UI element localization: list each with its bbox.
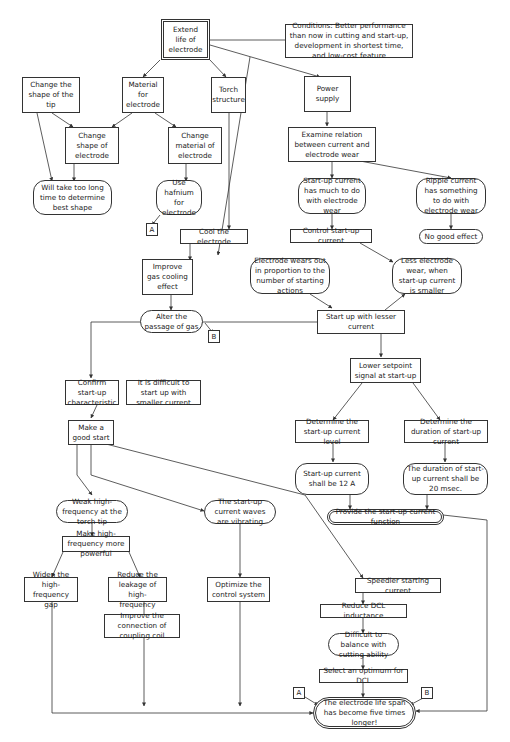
node-change-tip: Change the shape of the tip: [22, 77, 80, 113]
node-power-supply: Power supply: [304, 76, 351, 112]
node-difficult-start: It is difficult to start up with smaller…: [126, 380, 201, 405]
node-change-shape: Change shape of electrode: [65, 127, 119, 164]
connector-b-bottom: B: [421, 687, 433, 699]
node-torch: Torch structure: [211, 77, 246, 113]
node-extend-life: Extend life of electrode: [161, 19, 210, 60]
node-cool: Cool the electrode: [180, 229, 248, 244]
node-balance: Difficult to balance with cutting abilit…: [328, 633, 399, 656]
node-startup-wear: Start-up current has much to do with ele…: [298, 178, 366, 214]
node-reduce-leak: Reduce the leakage of high-frequency: [108, 577, 167, 602]
connector-a-bottom: A: [293, 687, 305, 699]
node-too-long: Will take too long time to determine bes…: [33, 180, 112, 215]
node-vibrating: The start-up current waves are vibrating: [204, 500, 276, 524]
node-det-duration: Determine the duration of start-up curre…: [404, 420, 488, 443]
node-material: Material for electrode: [122, 77, 164, 113]
node-change-material: Change material of electrode: [168, 127, 222, 164]
node-weak-hf: Weak high-frequency at the torch tip: [56, 500, 128, 523]
node-result: The electrode life span has become five …: [313, 697, 416, 729]
node-coupling: Improve the connection of coupling coil: [104, 614, 180, 638]
node-duration-20: The duration of start-up current shall b…: [403, 463, 488, 495]
node-speedier: Speedier starting current: [355, 578, 441, 593]
node-hafnium: Use hafnium for electrode: [156, 180, 202, 215]
node-level-12a: Start-up current shall be 12 A: [295, 463, 369, 495]
node-widen: Widen the high-frequency gap: [24, 577, 78, 602]
node-det-level: Determine the start-up current level: [295, 420, 369, 443]
node-examine: Examine relation between current and ele…: [288, 127, 376, 162]
node-conditions: Conditions: Better performance than now …: [285, 24, 413, 58]
node-no-good: No good effect: [419, 229, 483, 244]
node-less-wear: Less electrode wear, when start-up curre…: [392, 258, 462, 294]
node-improve-gas: Improve gas cooling effect: [142, 259, 193, 295]
node-more-powerful: Make high-frequency more powerful: [62, 536, 130, 552]
connector-a-top: A: [146, 223, 158, 236]
node-optimize: Optimize the control system: [207, 577, 270, 602]
node-ripple: Ripple current has something to do with …: [416, 178, 486, 214]
node-lower-setpoint: Lower setpoint signal at start-up: [350, 358, 421, 383]
node-provide-function: Provide the start-up current function: [327, 509, 444, 525]
node-reduce-dcl: Reduce DCL inductance: [320, 604, 407, 618]
node-control: Control start-up current: [290, 229, 372, 243]
node-alter-gas: Alter the passage of gas: [140, 310, 203, 333]
node-select-dcl: Select an optimum for DCL: [319, 669, 408, 683]
node-wears-out: Electrode wears out in proportion to the…: [250, 258, 330, 294]
connector-b-top: B: [208, 330, 220, 343]
node-good-start: Make a good start: [68, 420, 114, 445]
node-confirm: Confirm start-up characteristic: [65, 380, 119, 405]
node-lesser-current: Start up with lesser current: [317, 310, 405, 334]
